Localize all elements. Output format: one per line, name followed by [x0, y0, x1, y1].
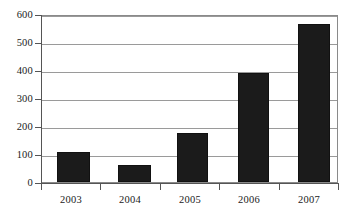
- y-axis-label-200: 200: [1, 122, 33, 132]
- x-axis-label-2004: 2004: [100, 194, 160, 206]
- bar-2003: [57, 152, 90, 182]
- y-axis-line: [41, 15, 42, 184]
- gridline-600: [42, 16, 337, 17]
- x-axis-label-2006: 2006: [219, 194, 279, 206]
- bar-2005: [177, 133, 208, 182]
- y-tick-600: [35, 15, 41, 16]
- y-tick-400: [35, 71, 41, 72]
- gridline-300: [42, 100, 337, 101]
- x-axis-label-2003: 2003: [41, 194, 101, 206]
- x-tick-4: [279, 184, 280, 190]
- bar-2004: [118, 165, 151, 182]
- x-tick-3: [219, 184, 220, 190]
- y-axis-label-400: 400: [1, 66, 33, 76]
- x-axis-label-2007: 2007: [279, 194, 339, 206]
- x-tick-2: [160, 184, 161, 190]
- y-axis-label-100: 100: [1, 150, 33, 160]
- x-tick-end: [338, 184, 339, 190]
- bar-2007: [298, 24, 330, 182]
- y-tick-200: [35, 127, 41, 128]
- gridline-200: [42, 128, 337, 129]
- x-tick-1: [100, 184, 101, 190]
- y-tick-100: [35, 155, 41, 156]
- y-tick-300: [35, 99, 41, 100]
- bar-chart: 600 500 400 300 200 100 0 2003 2004 2005…: [0, 0, 356, 218]
- x-axis-line: [41, 183, 339, 184]
- gridline-400: [42, 72, 337, 73]
- x-tick-start: [41, 184, 42, 190]
- x-axis-label-2005: 2005: [160, 194, 220, 206]
- y-axis-label-300: 300: [1, 94, 33, 104]
- y-axis-label-600: 600: [1, 10, 33, 20]
- gridline-500: [42, 44, 337, 45]
- y-axis-label-500: 500: [1, 38, 33, 48]
- plot-area: [41, 15, 338, 183]
- y-axis-label-0: 0: [1, 178, 33, 188]
- bar-2006: [238, 73, 269, 182]
- y-tick-500: [35, 43, 41, 44]
